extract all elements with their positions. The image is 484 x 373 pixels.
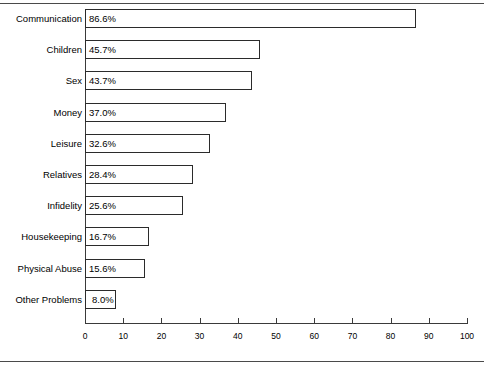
x-axis-tick <box>276 318 277 324</box>
bar-category-label: Relatives <box>0 165 82 184</box>
x-axis-tick <box>85 318 86 324</box>
bar-value-label: 43.7% <box>89 71 116 90</box>
bottom-horizontal-rule <box>0 361 484 362</box>
x-axis-tick <box>391 318 392 324</box>
bar-value-label: 32.6% <box>89 134 116 153</box>
bar-value-label: 25.6% <box>89 196 116 215</box>
bar-category-label: Other Problems <box>0 290 82 309</box>
bar-row: Communication86.6% <box>0 9 484 28</box>
bar-category-label: Leisure <box>0 134 82 153</box>
bar-category-label: Money <box>0 103 82 122</box>
x-axis-tick-label: 20 <box>149 331 173 341</box>
x-axis-tick-label: 30 <box>188 331 212 341</box>
x-axis-tick <box>314 318 315 324</box>
x-axis-tick <box>238 318 239 324</box>
bar <box>85 9 416 28</box>
bar-row: Relatives28.4% <box>0 165 484 184</box>
x-axis-tick-label: 0 <box>73 331 97 341</box>
x-axis-tick <box>429 318 430 324</box>
x-axis-tick-label: 10 <box>111 331 135 341</box>
bar-row: Other Problems8.0% <box>0 290 484 309</box>
bar-row: Infidelity25.6% <box>0 196 484 215</box>
bar-category-label: Communication <box>0 9 82 28</box>
bar-category-label: Physical Abuse <box>0 259 82 278</box>
bar-row: Physical Abuse15.6% <box>0 259 484 278</box>
x-axis-tick-label: 50 <box>264 331 288 341</box>
x-axis-tick <box>161 318 162 324</box>
bar-row: Housekeeping16.7% <box>0 227 484 246</box>
bar-value-label: 15.6% <box>89 259 116 278</box>
x-axis-tick-label: 70 <box>340 331 364 341</box>
bar-row: Sex43.7% <box>0 71 484 90</box>
bar-row: Leisure32.6% <box>0 134 484 153</box>
x-axis-tick <box>467 318 468 324</box>
x-axis-tick-label: 60 <box>302 331 326 341</box>
x-axis-tick <box>352 318 353 324</box>
bar-row: Children45.7% <box>0 40 484 59</box>
bar-chart: Communication86.6%Children45.7%Sex43.7%M… <box>0 0 484 361</box>
bar-category-label: Sex <box>0 71 82 90</box>
x-axis-tick-label: 100 <box>455 331 479 341</box>
bar-value-label: 28.4% <box>89 165 116 184</box>
bar-category-label: Housekeeping <box>0 227 82 246</box>
x-axis-tick-label: 90 <box>417 331 441 341</box>
bar-value-label: 8.0% <box>92 290 114 309</box>
bar-category-label: Infidelity <box>0 196 82 215</box>
x-axis-tick <box>200 318 201 324</box>
bar-value-label: 45.7% <box>89 40 116 59</box>
bar-row: Money37.0% <box>0 103 484 122</box>
x-axis-tick <box>123 318 124 324</box>
bar-value-label: 37.0% <box>89 103 116 122</box>
bar-value-label: 86.6% <box>89 9 116 28</box>
bar-category-label: Children <box>0 40 82 59</box>
x-axis-tick-label: 40 <box>226 331 250 341</box>
bar-value-label: 16.7% <box>89 227 116 246</box>
x-axis-tick-label: 80 <box>379 331 403 341</box>
